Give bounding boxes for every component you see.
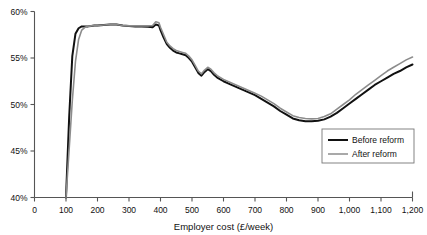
x-axis-tick-label: 600 (216, 205, 230, 215)
y-axis-tick-label: 60% (10, 7, 27, 17)
chart-container: 40%45%50%55%60%0100200300400500600700800… (0, 0, 427, 235)
y-axis-tick-label: 40% (10, 193, 27, 203)
x-axis-tick-label: 200 (90, 205, 104, 215)
x-axis-tick-label: 100 (59, 205, 73, 215)
line-chart: 40%45%50%55%60%0100200300400500600700800… (0, 0, 427, 235)
y-axis-tick-label: 45% (10, 146, 27, 156)
x-axis-tick-label: 800 (279, 205, 293, 215)
series-line-after-reform (66, 22, 413, 198)
x-axis-tick-label: 700 (248, 205, 262, 215)
y-axis-tick-label: 50% (10, 100, 27, 110)
y-axis-tick-label: 55% (10, 53, 27, 63)
legend-label-before-reform: Before reform (352, 135, 404, 145)
x-axis-tick-label: 0 (32, 205, 37, 215)
x-axis-tick-label: 300 (122, 205, 136, 215)
x-axis-tick-label: 1,200 (402, 205, 424, 215)
x-axis-tick-label: 900 (311, 205, 325, 215)
x-axis-title: Employer cost (£/week) (174, 221, 273, 232)
legend-label-after-reform: After reform (352, 149, 397, 159)
x-axis-tick-label: 1,100 (370, 205, 392, 215)
x-axis-tick-label: 400 (153, 205, 167, 215)
x-axis-tick-label: 500 (185, 205, 199, 215)
series-line-before-reform (66, 25, 413, 198)
x-axis-tick-label: 1,000 (339, 205, 361, 215)
